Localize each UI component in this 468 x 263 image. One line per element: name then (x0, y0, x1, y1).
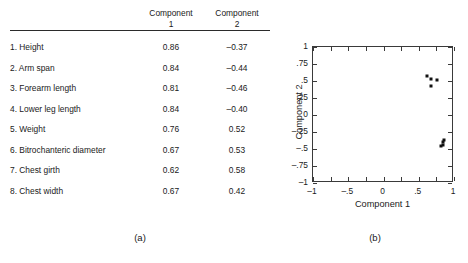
y-axis-tick-left (313, 98, 317, 99)
cell-component-1-loading: 0.84 (138, 58, 204, 79)
y-axis-tick-right (448, 132, 452, 133)
component-loadings-table: Component Component 1 2 1. Height0.86 (10, 8, 270, 201)
header-component-2-line1: Component (204, 8, 270, 19)
y-axis-tick-right (448, 98, 452, 99)
cell-component-2-loading: –0.44 (204, 58, 270, 79)
cell-component-1-loading: 0.84 (138, 99, 204, 120)
y-tick-label: –1 (282, 177, 308, 187)
header-component-1-line1: Component (138, 8, 204, 19)
table-header: Component Component 1 2 (10, 8, 270, 37)
table-header-row-1: Component Component (10, 8, 270, 19)
cell-variable-name: 4. Lower leg length (10, 99, 138, 120)
scatter-point (429, 77, 432, 80)
x-axis-tick-top (348, 47, 349, 51)
x-axis-tick-top (419, 47, 420, 51)
panel-b-caption: (b) (290, 232, 460, 243)
table-row: 4. Lower leg length0.84–0.40 (10, 99, 270, 120)
header-variable-blank-2 (10, 19, 138, 30)
x-axis-tick-top (454, 47, 455, 51)
y-tick-label: .5 (282, 75, 308, 85)
cell-component-2-loading: 0.52 (204, 119, 270, 140)
x-axis-tick-top (401, 47, 402, 51)
table-body: 1. Height0.86–0.372. Arm span0.84–0.443.… (10, 37, 270, 201)
cell-component-1-loading: 0.67 (138, 140, 204, 161)
scatter-point (429, 85, 432, 88)
y-axis-tick-left (313, 64, 317, 65)
x-tick-label: –1 (297, 186, 327, 196)
y-tick-label: 0 (282, 109, 308, 119)
cell-variable-name: 5. Weight (10, 119, 138, 140)
scatter-point (426, 74, 429, 77)
y-axis-tick-right (448, 64, 452, 65)
plot-frame (312, 46, 453, 182)
cell-variable-name: 8. Chest width (10, 181, 138, 202)
header-variable-blank (10, 8, 138, 19)
x-axis-tick-top (384, 47, 385, 51)
table-row: 5. Weight0.760.52 (10, 119, 270, 140)
cell-component-1-loading: 0.76 (138, 119, 204, 140)
scatter-point (441, 141, 444, 144)
panel-a-loadings-table: Component Component 1 2 1. Height0.86 (0, 0, 280, 263)
y-axis-tick-right (448, 149, 452, 150)
y-axis-tick-left (313, 115, 317, 116)
x-axis-tick-bottom (331, 177, 332, 181)
y-axis-tick-right (448, 47, 452, 48)
cell-variable-name: 6. Bitrochanteric diameter (10, 140, 138, 161)
x-tick-label: 1 (438, 186, 468, 196)
header-component-1-line2: 1 (138, 19, 204, 30)
x-axis-tick-top (366, 47, 367, 51)
y-tick-label: –.5 (282, 143, 308, 153)
y-tick-label: –.75 (282, 160, 308, 170)
x-axis-tick-bottom (419, 177, 420, 181)
x-axis-tick-bottom (436, 177, 437, 181)
scatter-point (436, 78, 439, 81)
cell-component-1-loading: 0.62 (138, 160, 204, 181)
y-tick-label: .75 (282, 58, 308, 68)
x-tick-label: 0 (368, 186, 398, 196)
panel-a-caption: (a) (0, 232, 280, 243)
y-tick-label: .25 (282, 92, 308, 102)
table-row: 1. Height0.86–0.37 (10, 37, 270, 58)
table-row: 8. Chest width0.670.42 (10, 181, 270, 202)
y-axis-tick-left (313, 132, 317, 133)
x-axis-tick-top (331, 47, 332, 51)
x-axis-tick-bottom (384, 177, 385, 181)
x-tick-label: .5 (403, 186, 433, 196)
x-axis-tick-bottom (454, 177, 455, 181)
y-axis-tick-left (313, 81, 317, 82)
table-row: 6. Bitrochanteric diameter0.670.53 (10, 140, 270, 161)
cell-variable-name: 7. Chest girth (10, 160, 138, 181)
y-axis-tick-left (313, 183, 317, 184)
panel-b-scatter-plot: Component 2 –1–.75–.5–.250.25.5.751 –1–.… (280, 0, 468, 263)
x-axis-title: Component 1 (312, 199, 453, 209)
y-tick-label: 1 (282, 41, 308, 51)
cell-component-1-loading: 0.86 (138, 37, 204, 58)
y-axis-tick-right (448, 81, 452, 82)
cell-component-2-loading: 0.58 (204, 160, 270, 181)
cell-component-2-loading: 0.53 (204, 140, 270, 161)
figure-container: Component Component 1 2 1. Height0.86 (0, 0, 468, 263)
x-axis-tick-bottom (348, 177, 349, 181)
table-row: 3. Forearm length0.81–0.46 (10, 78, 270, 99)
cell-variable-name: 2. Arm span (10, 58, 138, 79)
scatter-point (439, 145, 442, 148)
table-header-row-2: 1 2 (10, 19, 270, 30)
cell-variable-name: 1. Height (10, 37, 138, 58)
table-row: 7. Chest girth0.620.58 (10, 160, 270, 181)
y-axis-tick-right (448, 166, 452, 167)
cell-component-1-loading: 0.81 (138, 78, 204, 99)
y-axis-tick-left (313, 47, 317, 48)
y-axis-tick-right (448, 183, 452, 184)
y-axis-tick-right (448, 115, 452, 116)
cell-component-1-loading: 0.67 (138, 181, 204, 202)
table-row: 2. Arm span0.84–0.44 (10, 58, 270, 79)
cell-component-2-loading: 0.42 (204, 181, 270, 202)
header-component-2-line2: 2 (204, 19, 270, 30)
cell-component-2-loading: –0.40 (204, 99, 270, 120)
x-axis-tick-bottom (313, 177, 314, 181)
x-axis-tick-top (436, 47, 437, 51)
y-tick-label: –.25 (282, 126, 308, 136)
y-axis-tick-left (313, 166, 317, 167)
x-axis-tick-bottom (366, 177, 367, 181)
x-tick-label: –.5 (332, 186, 362, 196)
